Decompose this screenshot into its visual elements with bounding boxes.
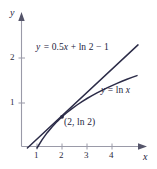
x-axis-label: x: [143, 152, 147, 162]
x-axis-arrowhead: [138, 143, 147, 149]
tangent-log-arg: 2: [89, 42, 94, 52]
curve-lhs: y: [101, 85, 105, 95]
x-tick-label-2: 2: [59, 151, 64, 160]
x-tick-label-1: 1: [34, 151, 39, 160]
curve-log-fn: ln: [116, 85, 124, 95]
tangent-log-fn: ln: [79, 42, 87, 52]
point-x-value: 2,: [67, 117, 74, 127]
curve-equals: =: [108, 85, 113, 95]
graph-figure: y x 1 2 3 4 1 2 y = 0.5x + ln 2 − 1 y = …: [0, 0, 157, 169]
y-tick-label-1: 1: [10, 98, 15, 107]
tangent-line-equation-label: y = 0.5x + ln 2 − 1: [36, 43, 109, 53]
ln-curve-equation-label: y = ln x: [101, 86, 130, 96]
plot-canvas: [0, 0, 157, 169]
y-axis-arrowhead: [18, 12, 24, 21]
y-axis-label: y: [10, 8, 14, 18]
tangent-constant: 1: [104, 42, 109, 52]
tangent-minus: −: [96, 42, 101, 52]
tangent-coefficient: 0.5: [52, 42, 64, 52]
tangency-point-label: (2, ln 2): [64, 118, 95, 128]
point-close-paren: ): [92, 117, 95, 127]
x-tick-label-3: 3: [84, 151, 89, 160]
tangent-line: [27, 45, 138, 148]
curve-log-arg: x: [126, 85, 130, 95]
tangent-equals: =: [44, 42, 49, 52]
y-tick-label-2: 2: [10, 53, 15, 62]
tangent-coef-var: x: [64, 42, 68, 52]
point-log-fn: ln: [77, 117, 85, 127]
x-tick-label-4: 4: [109, 151, 114, 160]
tangent-plus: +: [71, 42, 76, 52]
